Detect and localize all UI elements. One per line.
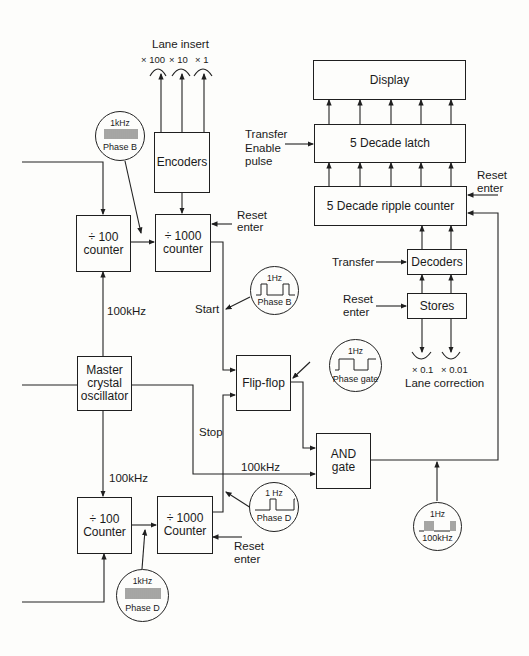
single-pulse-icon: [250, 483, 300, 533]
transfer-enable-line3: pulse: [245, 155, 287, 169]
div100-top-line1: ÷ 100: [89, 231, 119, 244]
waveform-phase-d-1hz: 1 Hz Phase D: [249, 482, 299, 532]
encoders-label: Encoders: [157, 156, 208, 169]
div100-top-line2: counter: [83, 244, 123, 257]
reset-line: Reset: [237, 209, 267, 221]
waveform-phase-b-1hz: 1Hz Phase B: [250, 266, 299, 315]
dial-x10-label: × 10: [169, 54, 188, 66]
transfer-enable-label: Transfer Enable pulse: [245, 128, 287, 169]
freq-100khz-and-label: 100kHz: [241, 461, 280, 473]
stop-label: Stop: [199, 426, 223, 438]
reset-enter-div1000-top-label: Reset enter: [237, 209, 267, 233]
stores-label: Stores: [420, 300, 455, 313]
reset-line: Reset: [343, 293, 373, 306]
waveform-bottom-label: Phase B: [251, 297, 298, 307]
waveform-bottom-label: Phase D: [117, 603, 168, 613]
waveform-bottom-label: Phase B: [96, 142, 144, 152]
ripple-counter-block: 5 Decade ripple counter: [314, 186, 467, 226]
decoders-block: Decoders: [407, 249, 467, 275]
display-label: Display: [370, 74, 409, 87]
div1000-bottom-line2: Counter: [164, 525, 207, 538]
waveform-phase-d-1khz: 1kHz Phase D: [116, 569, 169, 622]
reset-enter-ripple-label: Reset enter: [477, 169, 507, 194]
and-gate-block: AND gate: [316, 433, 371, 489]
reset-line: Reset: [477, 169, 507, 182]
reset-enter-div1000-bottom-label: Reset enter: [234, 540, 264, 565]
dial-x100-label: × 100: [141, 54, 165, 66]
dial-x01-label: × 0.1: [412, 364, 433, 376]
flipflop-block: Flip-flop: [236, 355, 291, 411]
ripple-counter-label: 5 Decade ripple counter: [327, 200, 454, 213]
div100-bottom-line2: Counter: [83, 526, 126, 539]
enter-line: enter: [237, 221, 267, 233]
div1000-counter-bottom: ÷ 1000 Counter: [157, 496, 213, 554]
dial-x1-label: × 1: [195, 54, 208, 66]
encoders-block: Encoders: [154, 132, 210, 193]
lane-insert-label: Lane insert: [152, 38, 209, 50]
enter-line: enter: [343, 306, 373, 319]
freq-100khz-lower-label: 100kHz: [109, 472, 148, 484]
dense-pulse-train-icon: [96, 112, 146, 162]
waveform-phase-gate: 1Hz Phase gate: [329, 339, 382, 392]
waveform-bottom-label: 100kHz: [414, 533, 461, 543]
div1000-counter-top: ÷ 1000 counter: [155, 214, 211, 272]
dense-pulse-train-icon: [117, 570, 170, 623]
enter-line: enter: [234, 553, 264, 566]
start-label: Start: [195, 303, 219, 315]
latch-label: 5 Decade latch: [350, 137, 430, 150]
transfer-label: Transfer: [332, 256, 374, 268]
div100-counter-bottom: ÷ 100 Counter: [77, 497, 132, 554]
master-oscillator-block: Master crystal oscillator: [77, 356, 132, 411]
waveform-phase-b-1khz: 1kHz Phase B: [95, 111, 145, 161]
transfer-enable-line2: Enable: [245, 142, 287, 156]
square-pulse-icon: [251, 267, 300, 316]
waveform-gated-100khz: 1Hz 100kHz: [413, 502, 462, 551]
latch-block: 5 Decade latch: [314, 124, 466, 163]
reset-enter-stores-label: Reset enter: [343, 293, 373, 318]
div1000-top-line2: counter: [163, 243, 203, 256]
reset-line: Reset: [234, 540, 264, 553]
freq-100khz-upper-label: 100kHz: [107, 305, 146, 317]
lane-correction-label: Lane correction: [405, 377, 484, 389]
div100-bottom-line1: ÷ 100: [90, 513, 120, 526]
enter-line: enter: [477, 182, 507, 195]
display-block: Display: [313, 60, 466, 100]
waveform-bottom-label: Phase D: [250, 513, 298, 523]
flipflop-label: Flip-flop: [242, 377, 285, 390]
gated-burst-icon: [414, 503, 463, 552]
osc-line3: oscillator: [81, 390, 128, 403]
transfer-enable-line1: Transfer: [245, 128, 287, 142]
dial-x001-label: × 0.01: [441, 364, 468, 376]
square-wave-icon: [330, 340, 383, 393]
waveform-bottom-label: Phase gate: [330, 374, 381, 384]
decoders-label: Decoders: [411, 256, 462, 269]
stores-block: Stores: [407, 293, 467, 319]
and-line2: gate: [332, 461, 355, 474]
div100-counter-top: ÷ 100 counter: [76, 215, 131, 272]
